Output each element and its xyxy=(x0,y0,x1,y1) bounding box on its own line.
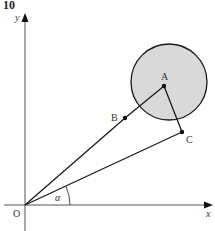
label-A: A xyxy=(161,71,169,82)
point-B xyxy=(123,116,127,120)
label-origin: O xyxy=(13,208,20,219)
diagram-figure: 10 A B C O y x α xyxy=(0,0,215,231)
y-axis-arrow-icon xyxy=(22,13,29,22)
point-A xyxy=(162,84,166,88)
line-OC xyxy=(25,132,182,205)
question-number: 10 xyxy=(3,0,15,13)
point-C xyxy=(180,130,184,134)
label-y-axis: y xyxy=(14,12,20,23)
angle-alpha-arc xyxy=(66,186,70,205)
label-alpha: α xyxy=(55,192,61,203)
label-C: C xyxy=(186,134,193,145)
label-B: B xyxy=(111,112,118,123)
geometry-canvas: A B C O y x α xyxy=(0,0,215,231)
label-x-axis: x xyxy=(205,208,211,219)
line-OB xyxy=(25,118,125,205)
circle xyxy=(131,44,207,120)
